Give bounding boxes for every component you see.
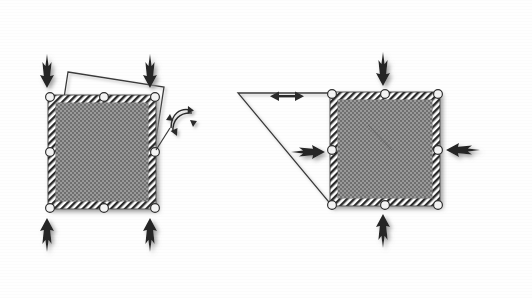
- handle-top-left[interactable]: [46, 93, 55, 102]
- handle-middle-left[interactable]: [328, 146, 337, 155]
- handle-top-center[interactable]: [100, 93, 109, 102]
- mechanics-diagram: [0, 0, 532, 298]
- handle-middle-right[interactable]: [434, 146, 443, 155]
- handle-bottom-left[interactable]: [328, 201, 337, 210]
- handle-bottom-right[interactable]: [151, 204, 160, 213]
- hatched-square[interactable]: [48, 95, 156, 209]
- handle-top-right[interactable]: [434, 90, 443, 99]
- figure-container: [0, 0, 532, 298]
- handle-top-center[interactable]: [381, 90, 390, 99]
- handle-bottom-center[interactable]: [100, 204, 109, 213]
- handle-top-left[interactable]: [328, 90, 337, 99]
- handle-top-right[interactable]: [151, 93, 160, 102]
- handle-bottom-center[interactable]: [381, 201, 390, 210]
- handle-middle-left[interactable]: [46, 148, 55, 157]
- hatched-square[interactable]: [330, 92, 440, 206]
- handle-middle-right[interactable]: [151, 148, 160, 157]
- handle-bottom-left[interactable]: [46, 204, 55, 213]
- handle-bottom-right[interactable]: [434, 201, 443, 210]
